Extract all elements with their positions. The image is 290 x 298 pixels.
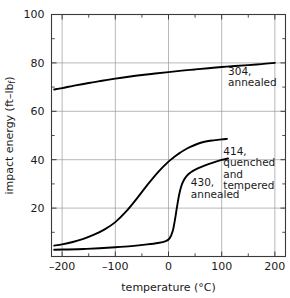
impact-energy-chart: –200–100010020020406080100temperature (°… [0, 0, 290, 298]
series-annotations: 304,annealed414,quenchedandtempered430,a… [191, 65, 277, 200]
y-tick-labels: 20406080100 [24, 8, 45, 215]
x-tick-label: 200 [264, 260, 285, 273]
x-tick-label: 100 [211, 260, 232, 273]
x-tick-label: –200 [49, 260, 76, 273]
series-label-0: 304, [228, 65, 251, 77]
y-tick-label: 20 [31, 202, 45, 215]
curve-series-2 [54, 158, 228, 249]
y-tick-label: 100 [24, 8, 45, 21]
series-label-2: annealed [191, 188, 240, 200]
series-label-1: quenched [223, 156, 275, 168]
y-tick-label: 60 [31, 105, 45, 118]
x-tick-label: –100 [102, 260, 129, 273]
series-label-2: 430, [191, 176, 214, 188]
y-axis-title-close: ) [3, 76, 16, 80]
chart-figure: –200–100010020020406080100temperature (°… [0, 0, 290, 298]
y-tick-label: 80 [31, 57, 45, 70]
x-tick-labels: –200–1000100200 [49, 260, 285, 273]
gridlines [52, 15, 286, 257]
x-axis-title: temperature (°C) [121, 281, 215, 294]
series-label-1: 414, [223, 145, 246, 157]
y-tick-label: 40 [31, 154, 45, 167]
series-label-1: and [223, 168, 243, 180]
y-axis-title: impact energy (ft–lbf) [3, 76, 17, 194]
x-tick-label: 0 [165, 260, 172, 273]
y-axis-title-main: impact energy (ft–lb [3, 84, 16, 195]
series-label-0: annealed [228, 76, 277, 88]
